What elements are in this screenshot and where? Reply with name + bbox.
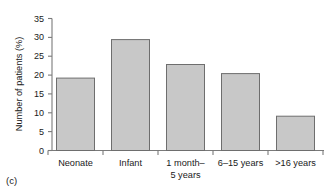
y-tick-label-5: 5 [39, 127, 44, 137]
x-category-label-1-month-5-years-line1: 1 month– [166, 158, 205, 168]
bar-chart-figure: Number of patients (%) 35 30 25 20 15 10… [0, 0, 329, 195]
y-tick-label-35: 35 [34, 14, 44, 24]
panel-label: (c) [6, 175, 17, 186]
x-category-label-neonate: Neonate [58, 158, 93, 168]
bar-infant [112, 40, 150, 151]
bar-neonate [57, 78, 95, 150]
x-category-label-1-month-5-years-line2: 5 years [170, 170, 201, 180]
x-category-label-infant: Infant [119, 158, 142, 168]
x-category-label-6-15-years: 6–15 years [218, 158, 264, 168]
chart-plot-area: Number of patients (%) 35 30 25 20 15 10… [0, 0, 329, 195]
y-tick-label-10: 10 [34, 108, 44, 118]
y-tick-label-25: 25 [34, 51, 44, 61]
y-tick-label-15: 15 [34, 89, 44, 99]
bar-6-15-years [222, 74, 260, 151]
y-axis-title: Number of patients (%) [14, 37, 24, 131]
bar-1-month-5-years [167, 65, 205, 151]
y-tick-label-0: 0 [39, 146, 44, 156]
x-category-label-over-16-years: >16 years [275, 158, 316, 168]
y-tick-label-20: 20 [34, 70, 44, 80]
bar-over-16-years [277, 116, 315, 150]
y-tick-label-30: 30 [34, 32, 44, 42]
